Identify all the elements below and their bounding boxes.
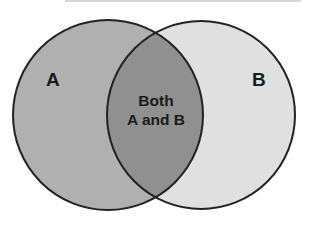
set-a-label: A (46, 70, 60, 89)
intersection-label-line1: Both (112, 91, 200, 110)
intersection-label-line2: A and B (112, 110, 200, 129)
set-b-label: B (252, 70, 266, 89)
intersection-label: Both A and B (112, 91, 200, 129)
